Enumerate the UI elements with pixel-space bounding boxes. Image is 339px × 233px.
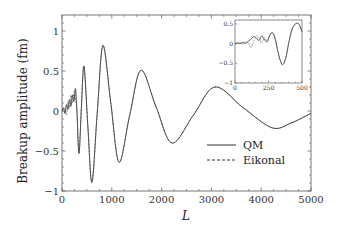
x-tick-label: 3000 — [199, 194, 224, 205]
x-tick-label: 5000 — [298, 194, 323, 205]
y-axis-label: Breakup amplitude (fm) — [16, 38, 30, 184]
legend-label-qm: QM — [243, 139, 263, 152]
y-tick-label: 0.5 — [43, 66, 59, 77]
y-tick-label: −0.5 — [35, 146, 59, 157]
inset-y-tick-label: −1 — [224, 79, 233, 86]
inset-y-tick-label: 0.5 — [223, 20, 233, 27]
x-tick-label: 4000 — [248, 194, 273, 205]
y-tick-label: 0 — [53, 106, 59, 117]
breakup-amplitude-chart: 010002000300040005000−1−0.500.51 L Break… — [0, 0, 339, 233]
y-tick-label: 1 — [53, 26, 59, 37]
x-tick-label: 1000 — [99, 194, 124, 205]
inset-y-tick-label: −0.5 — [218, 59, 233, 66]
inset-x-tick-label: 250 — [263, 84, 275, 91]
inset-y-tick-label: 0 — [229, 40, 233, 47]
inset-x-tick-label: 500 — [296, 84, 308, 91]
legend-label-eikonal: Eikonal — [243, 154, 285, 167]
x-tick-label: 0 — [59, 194, 65, 205]
inset-plot: 0250500−1−0.500.5 — [218, 20, 307, 91]
y-tick-label: −1 — [44, 186, 59, 197]
x-axis-label: L — [181, 209, 190, 223]
x-tick-label: 2000 — [149, 194, 174, 205]
inset-x-tick-label: 0 — [233, 84, 237, 91]
legend: QM Eikonal — [207, 139, 285, 167]
